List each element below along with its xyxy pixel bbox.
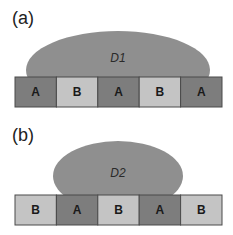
cell-label: B (31, 203, 40, 217)
droplet-d2-label: D2 (110, 166, 126, 180)
cell-label: A (156, 203, 165, 217)
cell-label: A (197, 85, 206, 99)
droplet-d1-label: D1 (110, 51, 125, 65)
cell-label: B (156, 85, 165, 99)
panel-a: D1 A B A B A (15, 31, 222, 109)
cell-label: B (197, 203, 206, 217)
cell-label: B (114, 203, 123, 217)
cell-label: B (73, 85, 82, 99)
diagram-canvas: D1 A B A B A D2 B A B A B (0, 0, 233, 235)
cell-label: A (31, 85, 40, 99)
cell-label: A (114, 85, 123, 99)
substrate-row-a: A B A B A (15, 77, 222, 107)
substrate-row-b: B A B A B (15, 195, 222, 225)
cell-label: A (73, 203, 82, 217)
panel-b: D2 B A B A B (15, 141, 222, 225)
